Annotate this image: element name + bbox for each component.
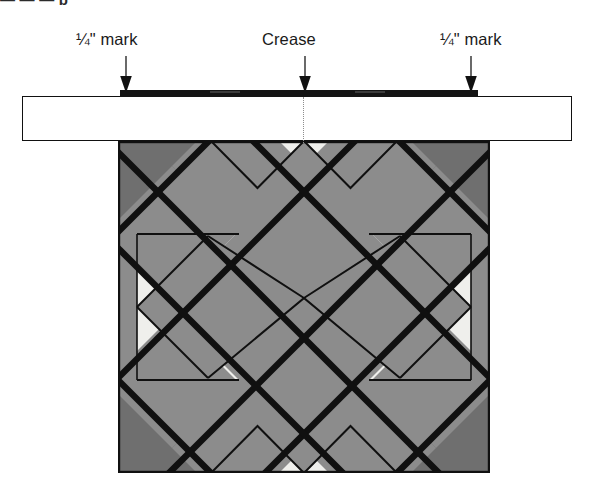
cropped-text-remnant: — — — p [0, 0, 280, 5]
diagram-canvas: — — — p ¼" mark Crease ¼" mark [0, 0, 597, 498]
ruler-edge-bar [120, 90, 478, 97]
crease-line [303, 97, 304, 145]
label-crease: Crease [262, 30, 316, 49]
template-ruler-strip [22, 96, 572, 141]
label-quarter-inch-mark-left: ¼" mark [76, 30, 138, 49]
label-quarter-inch-mark-right: ¼" mark [440, 30, 502, 49]
quilt-block [118, 141, 490, 473]
